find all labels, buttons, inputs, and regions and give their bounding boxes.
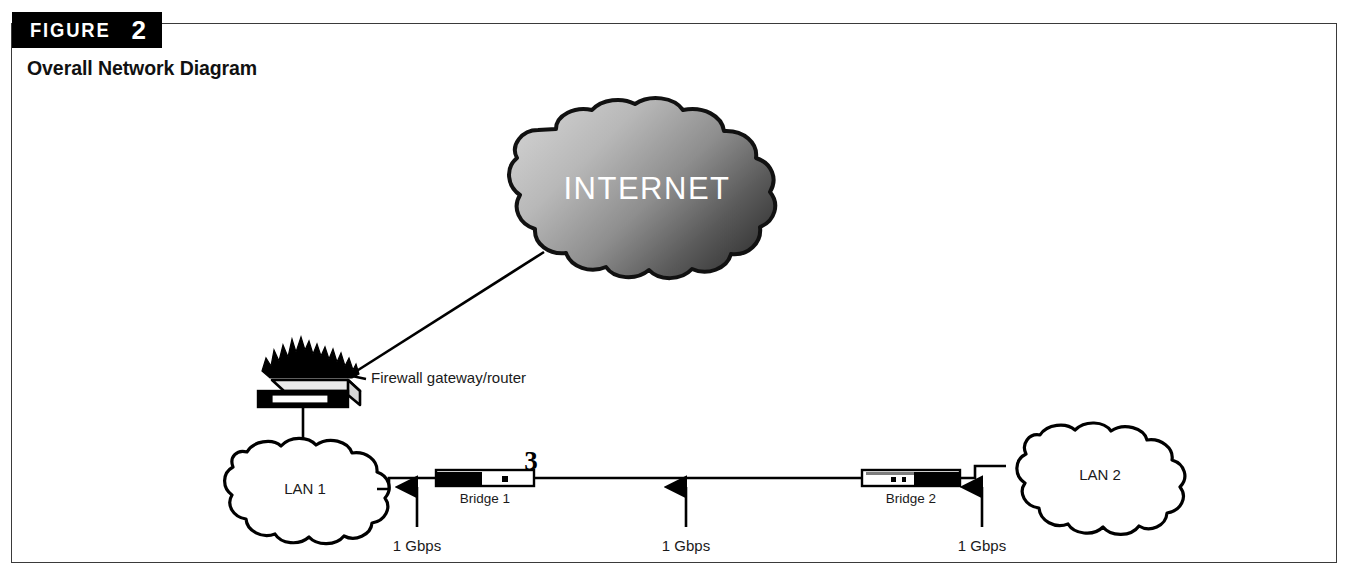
lan2-label: LAN 2 [1079,466,1121,483]
network-diagram: INTERNET Firewall gateway/router [0,0,1348,580]
link-label-gbps-middle: 1 Gbps [662,487,710,554]
link-internet-firewall [355,252,544,372]
node-lan1: LAN 1 [225,438,390,543]
firewall-front-slot [272,395,328,403]
figure-root: FIGURE 2 Overall Network Diagram [0,0,1348,580]
bridge1-indicator-dot [502,476,508,482]
internet-cloud-label: INTERNET [564,171,731,206]
firewall-label-leader [352,376,366,379]
node-internet: INTERNET [509,98,775,278]
bridge1-label: Bridge 1 [460,491,510,506]
node-bridge2: Bridge 2 [862,470,960,506]
bridge2-label: Bridge 2 [886,491,936,506]
firewall-label: Firewall gateway/router [371,369,526,386]
bridge1-active-block [436,472,482,485]
gbps-right-label: 1 Gbps [958,537,1006,554]
bridge2-indicator-dot [891,477,896,482]
firewall-flame-icon [262,337,359,378]
lan1-label: LAN 1 [284,480,326,497]
link-label-gbps-right: 1 Gbps [958,487,1006,554]
link-bridge2-lan2 [960,466,1006,478]
gbps-middle-label: 1 Gbps [662,537,710,554]
bridge2-active-block [914,472,959,485]
gbps-left-label: 1 Gbps [393,537,441,554]
bridge2-top-stripe [866,472,914,475]
bridge2-indicator-dot-2 [902,477,906,482]
firewall-box-side [348,380,360,405]
node-bridge1: Bridge 1 3 [436,446,538,506]
link-label-gbps-left: 1 Gbps [393,487,441,554]
node-lan2: LAN 2 [1017,423,1185,534]
bridge1-port-annotation: 3 [524,446,538,476]
